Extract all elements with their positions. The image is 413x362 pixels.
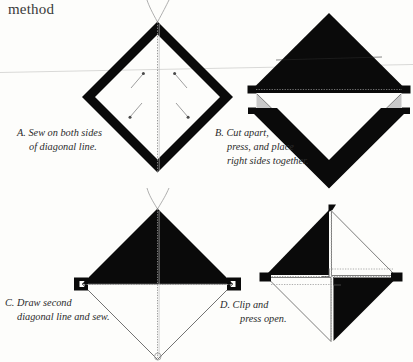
caption-a-line-2: of diagonal line. [17,140,102,154]
black-quadrant-upper-left-d [266,210,329,275]
panel-a-figure [82,0,233,173]
ear-tab-b-lower-right [402,108,410,115]
caption-d-line-1: D. Clip and [220,298,287,312]
black-quadrant-lower-right-d [334,278,398,342]
needle-thread-c [147,188,169,209]
ear-tab-d-right [391,273,403,282]
caption-panel-c: C. Draw second diagonal line and sew. [5,296,109,324]
ear-tab-c-left [74,278,88,291]
caption-b-line-2: press, and place [215,140,309,154]
ear-tab-d-left [260,273,272,282]
caption-c-line-2: diagonal line and sew. [5,310,109,324]
white-quadrant-upper-right-d [332,211,396,276]
ear-tab-b-upper-left [248,86,257,94]
caption-d-line-2: press open. [220,312,287,326]
caption-panel-b: B. Cut apart, press, and place right sid… [215,126,309,169]
caption-panel-a: A. Sew on both sides of diagonal line. [17,126,102,154]
panel-c-figure [74,188,241,360]
diamond-outline-a [82,22,233,173]
quilting-method-illustration-page: method [0,0,413,362]
stitch-arrow-lower-right [176,103,190,119]
upper-black-triangle-b [254,13,405,93]
stitch-arrow-lower-left [129,103,143,119]
stitch-arrow-upper-right [173,72,187,88]
caption-panel-d: D. Clip and press open. [220,298,287,326]
stitch-arrow-upper-left [131,72,145,88]
ear-tab-c-right [227,278,241,291]
ear-tab-b-lower-left [248,108,256,115]
ear-tab-b-upper-right [402,86,411,94]
caption-a-line-1: A. Sew on both sides [17,126,102,140]
caption-b-line-3: right sides together. [215,154,309,168]
needle-thread-a [147,0,169,22]
ear-tab-d-top [329,205,337,213]
caption-b-line-1: B. Cut apart, [215,126,309,140]
caption-c-line-1: C. Draw second [5,296,109,310]
